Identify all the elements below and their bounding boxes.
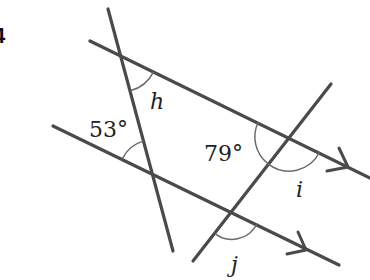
angle-h-arc	[130, 72, 153, 91]
angle-53-label: 53°	[89, 117, 128, 142]
right-transversal-line	[193, 84, 331, 261]
angle-h-label: h	[150, 89, 164, 114]
question-number: 4	[0, 23, 6, 48]
angle-i-label: i	[296, 177, 303, 202]
angle-j-label: j	[226, 252, 238, 277]
parallel-lines-diagram: 4 h 53° 79° i j	[0, 0, 370, 280]
angle-79-label: 79°	[204, 141, 243, 166]
angle-53-arc	[123, 141, 144, 159]
